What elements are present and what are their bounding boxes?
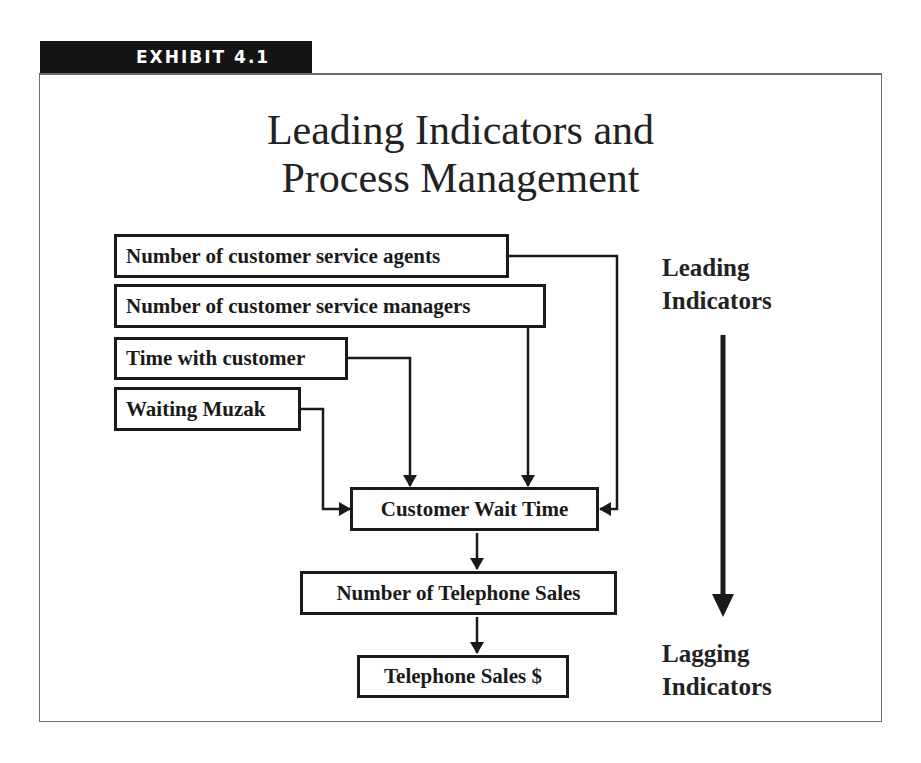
leading-line-2: Indicators (662, 284, 772, 317)
box-agents: Number of customer service agents (114, 234, 509, 278)
lagging-line-2: Indicators (662, 670, 772, 703)
leading-line-1: Leading (662, 251, 772, 284)
lagging-line-1: Lagging (662, 637, 772, 670)
box-telephone-sales-dollars: Telephone Sales $ (357, 655, 569, 698)
box-time-label: Time with customer (126, 346, 305, 371)
box-number-of-telephone-sales: Number of Telephone Sales (300, 571, 617, 615)
box-time-with-customer: Time with customer (114, 337, 348, 380)
lagging-indicators-label: Lagging Indicators (662, 637, 772, 703)
leading-to-lagging-arrowhead (712, 594, 734, 617)
connector-lines (0, 0, 921, 763)
leading-indicators-label: Leading Indicators (662, 251, 772, 317)
box-sales-count-label: Number of Telephone Sales (336, 581, 580, 606)
box-wait-label: Customer Wait Time (381, 497, 568, 522)
box-muzak-label: Waiting Muzak (126, 397, 265, 422)
box-managers: Number of customer service managers (114, 284, 546, 328)
box-managers-label: Number of customer service managers (126, 294, 470, 319)
box-sales-dollars-label: Telephone Sales $ (384, 664, 542, 689)
box-agents-label: Number of customer service agents (126, 244, 440, 269)
edge-muzak-to-wait (300, 409, 350, 509)
box-customer-wait-time: Customer Wait Time (350, 487, 599, 531)
box-waiting-muzak: Waiting Muzak (114, 387, 301, 431)
edge-time-to-wait (347, 358, 410, 486)
